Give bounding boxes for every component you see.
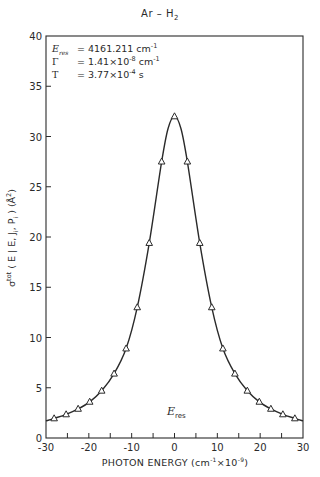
svg-text:0: 0 <box>171 442 177 453</box>
triangle-marker <box>158 158 165 164</box>
svg-text:15: 15 <box>29 282 42 293</box>
data-points <box>51 113 298 421</box>
triangle-marker <box>123 345 130 351</box>
plot-axes: 0510152025303540-30-20-100102030 <box>29 31 309 453</box>
triangle-marker <box>134 304 141 310</box>
svg-text:35: 35 <box>29 81 42 92</box>
fit-curve <box>46 116 303 421</box>
x-axis-label: PHOTON ENERGY (cm-1×10-9) <box>0 456 320 468</box>
svg-text:30: 30 <box>297 442 310 453</box>
svg-text:25: 25 <box>29 182 42 193</box>
svg-text:40: 40 <box>29 31 42 42</box>
annotation-lifetime: T = 3.77×10-4 s <box>52 66 144 81</box>
triangle-marker <box>184 158 191 164</box>
chart-plot: 0510152025303540-30-20-100102030 <box>0 0 320 477</box>
triangle-marker <box>196 239 203 245</box>
triangle-marker <box>146 239 153 245</box>
svg-text:5: 5 <box>36 383 42 394</box>
eres-marker-label: Eres <box>167 405 186 420</box>
svg-text:20: 20 <box>254 442 267 453</box>
svg-text:-20: -20 <box>81 442 97 453</box>
svg-text:20: 20 <box>29 232 42 243</box>
svg-text:-10: -10 <box>123 442 139 453</box>
triangle-marker <box>171 113 178 119</box>
svg-text:10: 10 <box>29 333 42 344</box>
svg-text:30: 30 <box>29 132 42 143</box>
triangle-marker <box>208 304 215 310</box>
svg-text:-30: -30 <box>38 442 54 453</box>
svg-text:10: 10 <box>211 442 224 453</box>
triangle-marker <box>220 345 227 351</box>
y-axis-label: σtot ( E | E, Ji, Pi ) (Å2) <box>5 189 19 287</box>
